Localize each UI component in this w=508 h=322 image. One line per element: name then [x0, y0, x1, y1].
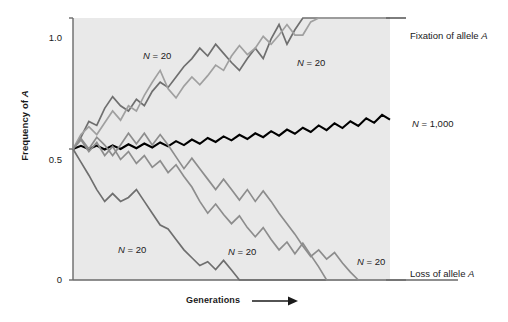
n-1000-label-symbol: N [412, 118, 419, 129]
y-tick-label-0-5: 0.5 [34, 154, 62, 165]
loss-label: Loss of allele A [410, 268, 474, 279]
y-tick-label-1: 1.0 [34, 32, 62, 43]
fixation-label-text: Fixation of allele [410, 30, 481, 41]
n-1000-label-value: = 1,000 [419, 118, 454, 129]
genetic-drift-figure: Frequency of A Generations 1.0 0.5 0 Fix… [0, 0, 508, 322]
x-axis-title: Generations [186, 295, 240, 305]
y-axis-title: Frequency of A [19, 56, 30, 196]
n-20-label-upper-right: N = 20 [297, 57, 325, 68]
y-axis-title-allele: A [19, 90, 30, 97]
arrow-head [288, 297, 298, 306]
n-20-label-upper-left: N = 20 [143, 50, 171, 61]
n-20-label-lower-mid: N = 20 [228, 246, 256, 257]
generations-arrow-icon [252, 297, 298, 306]
y-tick-label-0: 0 [34, 274, 62, 285]
n-20-label-lower-left: N = 20 [118, 244, 146, 255]
n-20-label-lower-right: N = 20 [357, 256, 385, 267]
fixation-label: Fixation of allele A [410, 30, 488, 41]
loss-label-text: Loss of allele [410, 268, 468, 279]
loss-label-allele: A [468, 268, 474, 279]
n-1000-label: N = 1,000 [412, 118, 453, 129]
y-axis-title-text: Frequency of [19, 97, 30, 161]
fixation-label-allele: A [481, 30, 487, 41]
